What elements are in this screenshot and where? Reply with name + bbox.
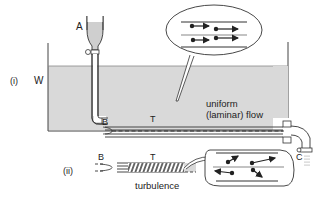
turbulent-callout — [184, 150, 294, 186]
label-outlet-c: C — [296, 152, 303, 162]
water-drip — [304, 155, 309, 165]
turbulent-dye-region — [128, 163, 184, 172]
label-part-i: (i) — [10, 76, 18, 86]
label-laminar-1: uniform — [206, 98, 238, 109]
label-tube-t-i: T — [150, 114, 156, 124]
label-part-ii: (ii) — [63, 166, 73, 176]
label-inlet-b-i: B — [102, 117, 108, 127]
label-reservoir-a: A — [76, 21, 83, 32]
label-tank-w: W — [34, 75, 44, 86]
label-laminar-2: (laminar) flow — [206, 109, 263, 120]
label-inlet-b-ii: B — [98, 152, 104, 162]
stopcock-knob — [86, 50, 91, 55]
glass-tube-turbulent — [95, 163, 196, 172]
water-body — [48, 66, 123, 130]
label-turbulence: turbulence — [135, 180, 179, 191]
stopcock — [91, 50, 99, 54]
label-tube-t-ii: T — [150, 152, 156, 162]
reynolds-experiment-diagram: A (i) W B T uniform (laminar) flow C (ii… — [0, 0, 329, 206]
